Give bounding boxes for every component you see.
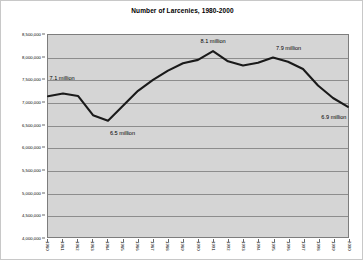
x-tick-mark (62, 239, 63, 242)
y-tick-mark (42, 215, 45, 216)
x-tick-label: 1994 (256, 241, 261, 251)
y-tick-mark (42, 34, 45, 35)
y-tick-label: 5,500,000 (22, 168, 41, 173)
y-tick-mark (42, 79, 45, 80)
y-tick-label: 7,000,000 (22, 100, 41, 105)
y-tick-mark (42, 56, 45, 57)
x-tick-label: 1981 (60, 241, 65, 251)
data-annotation: 8.1 million (201, 38, 226, 44)
data-annotation: 6.5 million (110, 130, 135, 136)
y-tick-mark (42, 102, 45, 103)
x-tick-label: 1984 (105, 241, 110, 251)
y-tick-mark (42, 170, 45, 171)
x-tick-label: 1996 (286, 241, 291, 251)
y-tick-label: 4,000,000 (22, 236, 41, 241)
x-tick-label: 1989 (180, 241, 185, 251)
y-tick-label: 7,500,000 (22, 77, 41, 82)
plot-area (47, 34, 349, 238)
x-tick-mark (228, 239, 229, 242)
x-tick-label: 1999 (331, 241, 336, 251)
x-tick-mark (183, 239, 184, 242)
x-tick-mark (92, 239, 93, 242)
x-tick-mark (349, 239, 350, 242)
x-tick-mark (47, 239, 48, 242)
y-tick-label: 4,500,000 (22, 213, 41, 218)
x-tick-mark (274, 239, 275, 242)
x-tick-mark (243, 239, 244, 242)
x-tick-mark (107, 239, 108, 242)
y-tick-label: 8,000,000 (22, 54, 41, 59)
x-tick-label: 1998 (316, 241, 321, 251)
y-tick-mark (42, 192, 45, 193)
x-tick-mark (198, 239, 199, 242)
y-tick-mark (42, 147, 45, 148)
x-tick-label: 1993 (241, 241, 246, 251)
x-tick-mark (304, 239, 305, 242)
x-tick-label: 1991 (211, 241, 216, 251)
x-tick-mark (334, 239, 335, 242)
y-tick-label: 8,500,000 (22, 32, 41, 37)
x-tick-label: 1990 (196, 241, 201, 251)
x-tick-mark (123, 239, 124, 242)
x-tick-mark (153, 239, 154, 242)
data-annotation: 6.9 million (321, 114, 346, 120)
chart-title: Number of Larcenies, 1980-2000 (1, 7, 363, 14)
y-tick-mark (42, 238, 45, 239)
x-tick-label: 1987 (150, 241, 155, 251)
x-tick-mark (168, 239, 169, 242)
chart-figure: Number of Larcenies, 1980-2000 8,500,000… (0, 0, 363, 260)
x-tick-label: 1986 (135, 241, 140, 251)
series-larcenies (48, 35, 348, 237)
y-tick-mark (42, 124, 45, 125)
x-tick-label: 1980 (45, 241, 50, 251)
x-tick-label: 1982 (75, 241, 80, 251)
y-tick-label: 6,000,000 (22, 145, 41, 150)
data-annotation: 7.9 million (276, 45, 301, 51)
x-tick-mark (138, 239, 139, 242)
y-tick-label: 6,500,000 (22, 122, 41, 127)
x-tick-mark (319, 239, 320, 242)
x-tick-label: 1995 (271, 241, 276, 251)
x-tick-label: 1983 (90, 241, 95, 251)
x-tick-mark (213, 239, 214, 242)
y-axis: 8,500,0008,000,0007,500,0007,000,0006,50… (1, 34, 45, 238)
x-tick-label: 1997 (301, 241, 306, 251)
x-tick-label: 1988 (165, 241, 170, 251)
x-tick-mark (258, 239, 259, 242)
x-tick-mark (77, 239, 78, 242)
x-tick-label: 1985 (120, 241, 125, 251)
x-axis: 1980198119821983198419851986198719881989… (47, 239, 349, 260)
x-tick-label: 1992 (226, 241, 231, 251)
x-tick-label: 2000 (347, 241, 352, 251)
x-tick-mark (289, 239, 290, 242)
data-annotation: 7.1 million (50, 75, 75, 81)
y-tick-label: 5,000,000 (22, 190, 41, 195)
